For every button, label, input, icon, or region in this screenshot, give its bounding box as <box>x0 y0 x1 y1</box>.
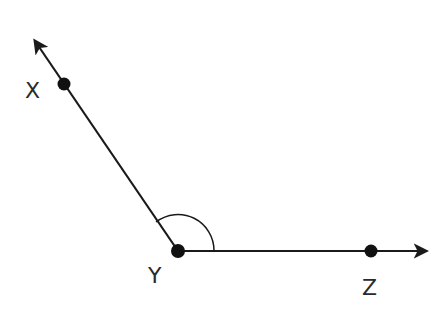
point-y <box>171 244 185 258</box>
diagram-svg: X Y Z <box>0 0 438 320</box>
label-y: Y <box>147 263 162 288</box>
label-z: Z <box>362 275 377 300</box>
point-x <box>58 78 71 91</box>
point-z <box>365 245 378 258</box>
angle-diagram: X Y Z <box>0 0 438 320</box>
label-x: X <box>25 78 40 103</box>
ray-yx <box>35 41 178 251</box>
